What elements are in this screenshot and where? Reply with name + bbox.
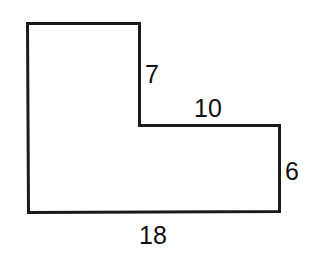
label-inner-horizontal: 10	[194, 94, 222, 122]
label-inner-vertical: 7	[145, 60, 159, 88]
l-shape-outline	[28, 24, 280, 213]
l-shape-diagram: 7 10 6 18	[0, 0, 323, 255]
label-bottom-side: 18	[139, 221, 167, 249]
label-right-side: 6	[285, 157, 299, 185]
